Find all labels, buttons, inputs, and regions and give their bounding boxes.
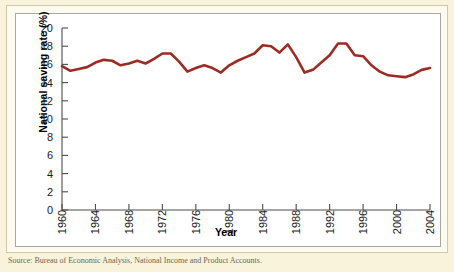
line-chart-svg: 02468101214161820 1960196419681972197619… xyxy=(16,14,442,248)
y-tick-label-group: 02468101214161820 xyxy=(41,22,53,216)
figure-frame: National saving rate (%) Year 0246810121… xyxy=(6,5,448,253)
y-tick-label: 0 xyxy=(47,204,53,216)
x-tick-label: 1976 xyxy=(190,210,202,234)
x-tick-label: 2000 xyxy=(391,210,403,234)
y-tick-label: 10 xyxy=(41,113,53,125)
y-tick-label: 18 xyxy=(41,40,53,52)
x-tick-label-group: 1960196419681972197619801984198819921996… xyxy=(56,210,436,234)
x-tick-label: 1968 xyxy=(123,210,135,234)
y-tick-label: 14 xyxy=(41,77,53,89)
x-tick-label: 1984 xyxy=(257,210,269,234)
x-tick-label: 1972 xyxy=(156,210,168,234)
figure-page: National saving rate (%) Year 0246810121… xyxy=(0,0,454,272)
x-tick-label: 1960 xyxy=(56,210,68,234)
y-tick-mark-group xyxy=(62,28,68,210)
chart-panel: National saving rate (%) Year 0246810121… xyxy=(15,13,441,247)
y-tick-label: 12 xyxy=(41,95,53,107)
figure-caption: Source: Bureau of Economic Analysis, Nat… xyxy=(8,256,448,268)
x-tick-label: 1996 xyxy=(357,210,369,234)
x-tick-label: 1980 xyxy=(223,210,235,234)
y-tick-label: 4 xyxy=(47,168,53,180)
y-tick-label: 20 xyxy=(41,22,53,34)
y-tick-label: 16 xyxy=(41,58,53,70)
y-tick-label: 8 xyxy=(47,131,53,143)
x-tick-mark-group xyxy=(62,204,430,210)
x-tick-label: 2004 xyxy=(424,210,436,234)
data-series-line xyxy=(62,43,430,77)
x-tick-label: 1964 xyxy=(89,210,101,234)
y-tick-label: 6 xyxy=(47,149,53,161)
y-tick-label: 2 xyxy=(47,186,53,198)
x-tick-label: 1988 xyxy=(290,210,302,234)
x-tick-label: 1992 xyxy=(324,210,336,234)
